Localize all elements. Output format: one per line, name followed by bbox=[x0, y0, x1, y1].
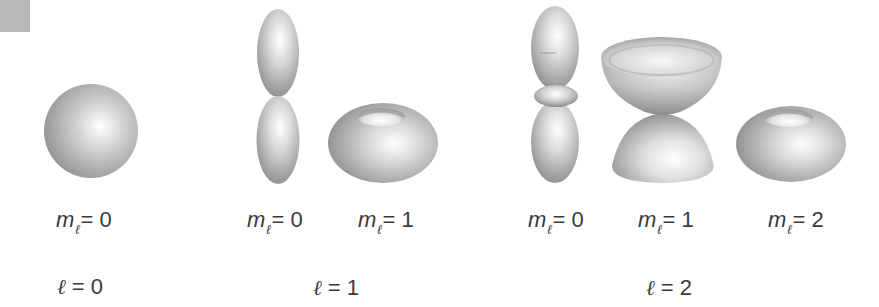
m-value: = 1 bbox=[383, 207, 414, 232]
m-symbol: m bbox=[638, 207, 656, 232]
l-value: = 1 bbox=[322, 275, 359, 300]
m-symbol: m bbox=[56, 207, 74, 232]
m-subscript: ℓ bbox=[657, 222, 661, 237]
m-symbol: m bbox=[247, 207, 265, 232]
orbital-d-m1-double-cone bbox=[601, 37, 722, 183]
m-subscript: ℓ bbox=[377, 222, 381, 237]
l-label-0: ℓ = 0 bbox=[57, 275, 103, 299]
m-symbol: m bbox=[528, 207, 546, 232]
m-label-l2-m0: mℓ= 0 bbox=[528, 208, 584, 235]
m-value: = 2 bbox=[793, 207, 824, 232]
m-label-l2-m2: mℓ= 2 bbox=[768, 208, 824, 235]
m-value: = 1 bbox=[663, 207, 694, 232]
m-label-l0-m0: mℓ= 0 bbox=[56, 208, 112, 235]
l-value: = 2 bbox=[655, 275, 692, 300]
orbital-d-m2-torus bbox=[736, 106, 846, 182]
l-symbol: ℓ bbox=[57, 275, 66, 299]
orbital-illustrations bbox=[0, 0, 879, 307]
m-label-l1-m1: mℓ= 1 bbox=[358, 208, 414, 235]
orbital-p-m0-dumbbell bbox=[257, 9, 300, 184]
m-symbol: m bbox=[768, 207, 786, 232]
l-label-1: ℓ = 1 bbox=[313, 276, 359, 300]
m-label-l1-m0: mℓ= 0 bbox=[247, 208, 303, 235]
orbital-p-m1-torus bbox=[328, 103, 438, 183]
m-subscript: ℓ bbox=[75, 222, 79, 237]
l-symbol: ℓ bbox=[646, 276, 655, 300]
l-symbol: ℓ bbox=[313, 276, 322, 300]
m-value: = 0 bbox=[81, 207, 112, 232]
orbital-d-m0-dumbbell-ring bbox=[531, 6, 579, 183]
m-symbol: m bbox=[358, 207, 376, 232]
m-label-l2-m1: mℓ= 1 bbox=[638, 208, 694, 235]
m-value: = 0 bbox=[272, 207, 303, 232]
l-label-2: ℓ = 2 bbox=[646, 276, 692, 300]
l-value: = 0 bbox=[66, 274, 103, 299]
m-subscript: ℓ bbox=[266, 222, 270, 237]
orbital-s-sphere bbox=[44, 84, 138, 178]
m-subscript: ℓ bbox=[787, 222, 791, 237]
m-value: = 0 bbox=[553, 207, 584, 232]
m-subscript: ℓ bbox=[547, 222, 551, 237]
